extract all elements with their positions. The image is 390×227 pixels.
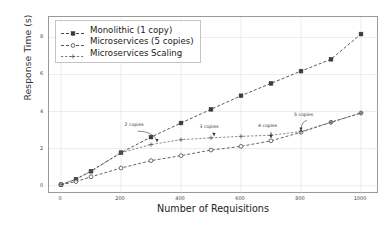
- y-axis-label: Response Time (s): [22, 0, 33, 133]
- annotation-label: 2 copies: [125, 122, 144, 127]
- legend-item[interactable]: Microservices (5 copies): [60, 36, 194, 48]
- y-tick-label: 0: [40, 182, 43, 188]
- annotation-label: 5 copies: [294, 112, 313, 117]
- legend-marker-plus-icon: [60, 47, 86, 58]
- x-tick-label: 200: [115, 195, 125, 201]
- y-tick-label: 6: [40, 70, 43, 76]
- x-axis-label: Number of Requisitions: [48, 203, 378, 214]
- x-tick-label: 1000: [354, 195, 367, 201]
- chart-legend: Monolithic (1 copy)Microservices (5 copi…: [55, 20, 201, 63]
- legend-marker-circle-open-icon: [60, 36, 86, 47]
- y-tick-label: 8: [40, 33, 43, 39]
- y-tick-label: 4: [40, 108, 43, 114]
- legend-item[interactable]: Monolithic (1 copy): [60, 24, 194, 36]
- chart-figure: Response Time (s) 02004006008001000 0246…: [0, 0, 390, 227]
- annotation-label: 3 copies: [200, 124, 219, 129]
- y-tick-label: 2: [40, 145, 43, 151]
- legend-marker-square-icon: [60, 24, 86, 35]
- x-tick-label: 400: [175, 195, 185, 201]
- x-tick-label: 0: [58, 195, 61, 201]
- x-tick-label: 800: [295, 195, 305, 201]
- x-tick-label: 600: [235, 195, 245, 201]
- legend-label: Microservices (5 copies): [90, 36, 194, 46]
- legend-label: Monolithic (1 copy): [90, 25, 172, 35]
- annotation-label: 4 copies: [258, 123, 277, 128]
- series-1: [59, 111, 363, 187]
- legend-label: Microservices Scaling: [90, 48, 182, 58]
- legend-item[interactable]: Microservices Scaling: [60, 47, 194, 59]
